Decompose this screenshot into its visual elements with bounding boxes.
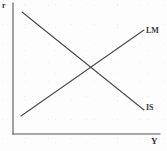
is-lm-figure: r Y LM IS	[0, 0, 167, 151]
lm-curve-label: LM	[146, 27, 159, 35]
is-curve-label: IS	[146, 104, 154, 112]
is-curve	[22, 12, 144, 110]
lm-curve	[21, 30, 144, 116]
x-axis-label: Y	[151, 137, 158, 146]
is-lm-chart-canvas	[0, 0, 167, 151]
y-axis-label: r	[2, 2, 6, 10]
